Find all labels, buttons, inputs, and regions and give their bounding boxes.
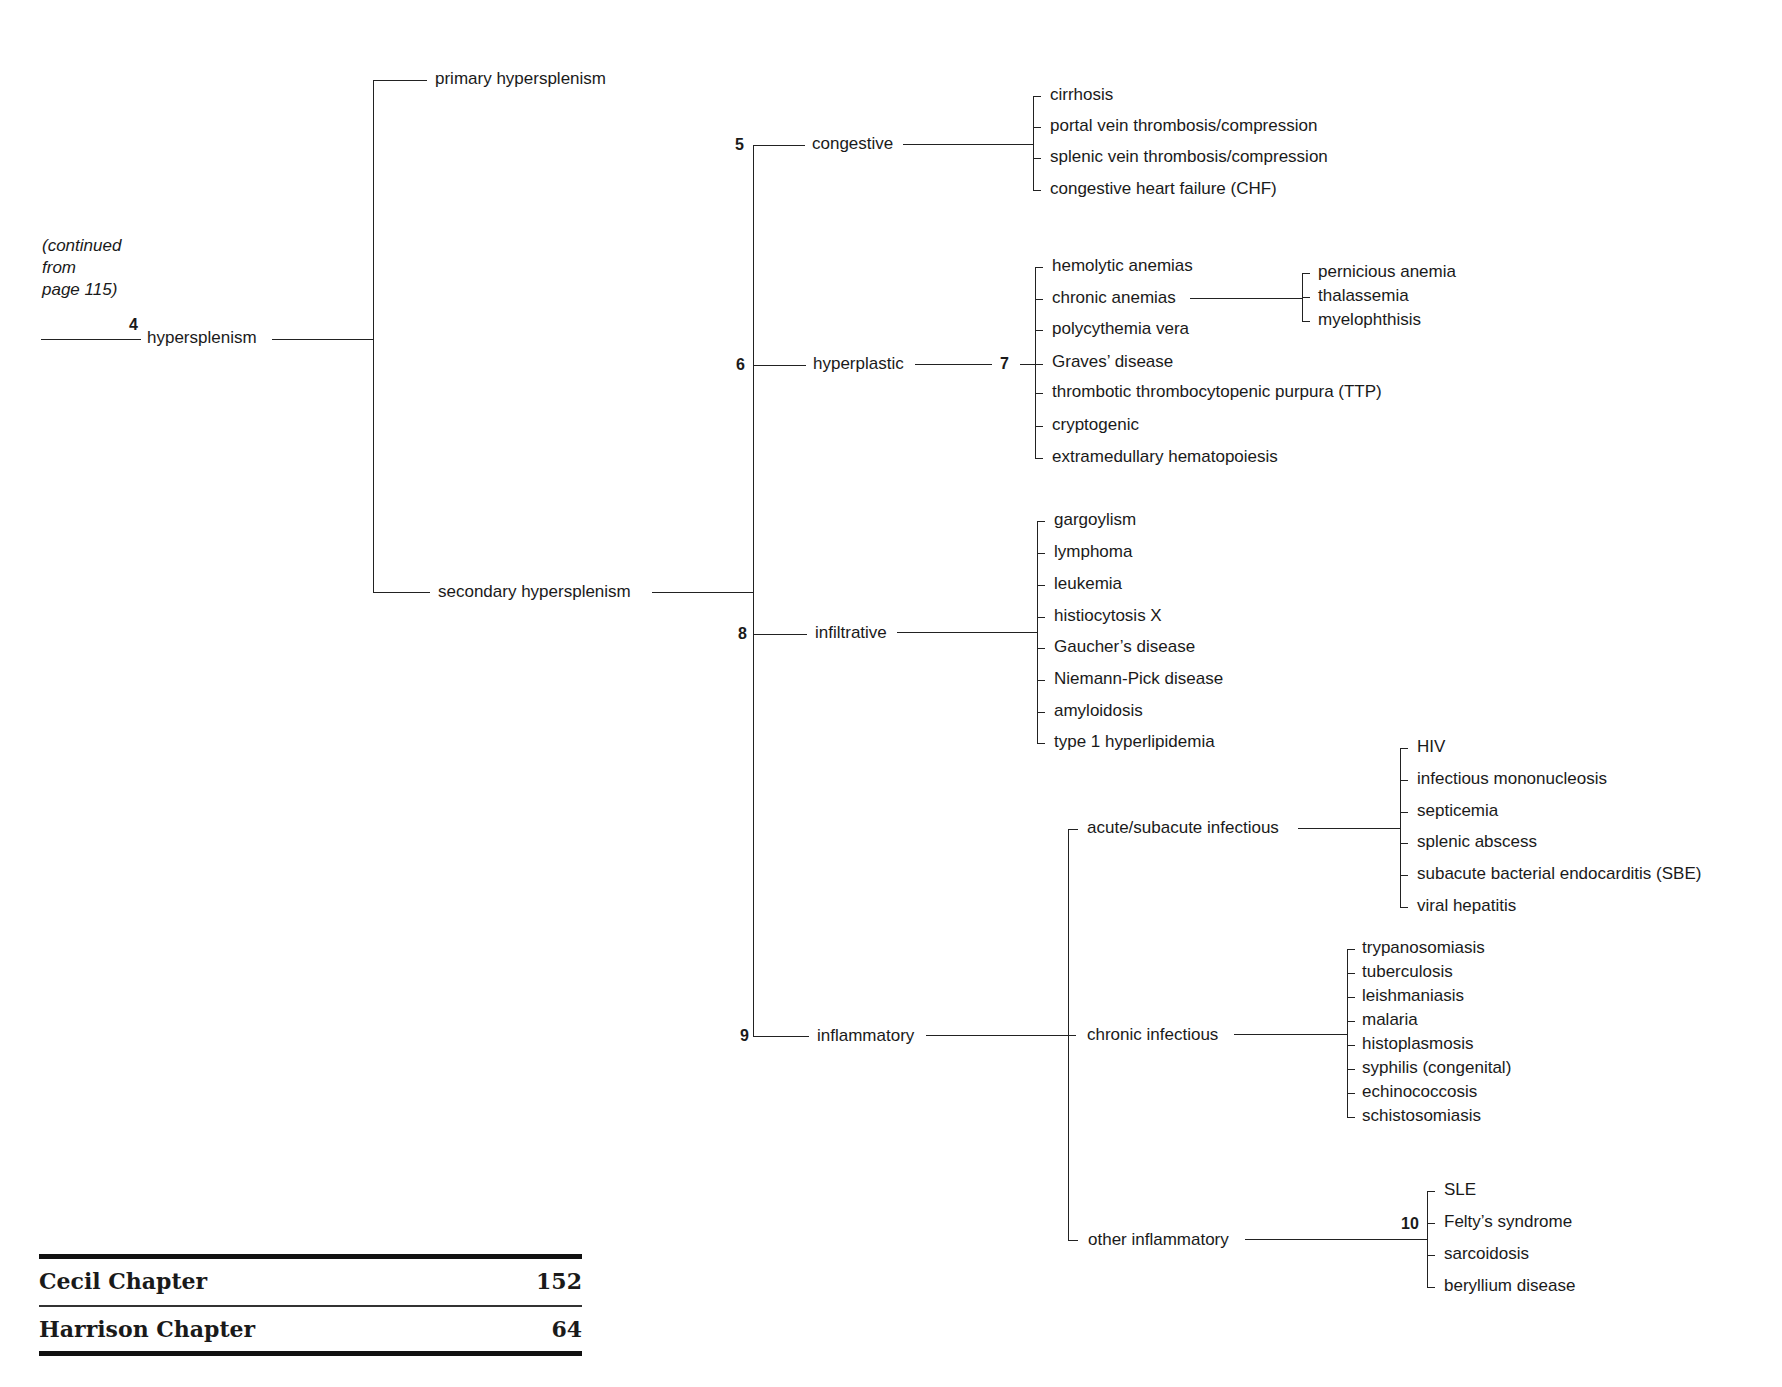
continued-note: (continued from page 115) [42,235,121,301]
leaf-item: Graves’ disease [1052,352,1173,372]
connector [1302,321,1310,322]
connector [1400,907,1408,908]
leaf-item: infectious mononucleosis [1417,769,1607,789]
connector [1033,127,1041,128]
connector [1035,299,1043,300]
connector [1033,96,1041,97]
node-acute-subacute-infectious: acute/subacute infectious [1087,818,1279,838]
reference-value: 64 [551,1316,582,1342]
connector [1068,829,1069,1240]
connector [1033,96,1034,190]
node-secondary-hypersplenism: secondary hypersplenism [438,582,631,602]
connector [1427,1191,1428,1287]
node-hypersplenism: hypersplenism [147,328,257,348]
connector [1033,158,1041,159]
connector [903,144,1033,145]
node-number: 6 [736,355,745,375]
leaf-item: amyloidosis [1054,701,1143,721]
leaf-item: gargoylism [1054,510,1136,530]
connector [272,339,373,340]
leaf-item: extramedullary hematopoiesis [1052,447,1278,467]
connector [753,365,806,366]
connector [1400,780,1408,781]
leaf-item: polycythemia vera [1052,319,1189,339]
connector [753,145,805,146]
connector [1400,748,1401,907]
connector [1035,426,1043,427]
connector [1033,190,1041,191]
connector [1347,1021,1355,1022]
connector [1347,1045,1355,1046]
connector [1427,1255,1435,1256]
leaf-item: syphilis (congenital) [1362,1058,1511,1078]
leaf-item: septicemia [1417,801,1498,821]
leaf-item: leukemia [1054,574,1122,594]
connector [1234,1034,1347,1035]
connector [1035,330,1043,331]
leaf-item: myelophthisis [1318,310,1421,330]
connector [1347,973,1355,974]
leaf-item: splenic abscess [1417,832,1537,852]
node-hyperplastic: hyperplastic [813,354,904,374]
connector [1037,743,1045,744]
leaf-item: histiocytosis X [1054,606,1162,626]
rule-top [39,1254,582,1259]
connector [753,634,807,635]
connector [1347,1093,1355,1094]
node-other-inflammatory: other inflammatory [1088,1230,1229,1250]
leaf-item: sarcoidosis [1444,1244,1529,1264]
leaf-item: chronic anemias [1052,288,1176,308]
connector [1035,458,1043,459]
reference-row-harrison: Harrison Chapter 64 [39,1316,582,1342]
leaf-item: viral hepatitis [1417,896,1516,916]
connector [1298,828,1400,829]
connector [1347,1069,1355,1070]
leaf-item: splenic vein thrombosis/compression [1050,147,1328,167]
connector [1035,393,1043,394]
connector [926,1035,1076,1036]
connector [897,632,1037,633]
leaf-item: HIV [1417,737,1445,757]
leaf-item: Niemann-Pick disease [1054,669,1223,689]
reference-label: Cecil Chapter [39,1268,207,1294]
connector [1427,1287,1435,1288]
connector [1400,843,1408,844]
node-number: 10 [1401,1214,1419,1234]
connector [1302,273,1310,274]
connector [1068,829,1078,830]
leaf-item: Felty’s syndrome [1444,1212,1572,1232]
leaf-item: cirrhosis [1050,85,1113,105]
connector [915,364,992,365]
rule-bottom [39,1351,582,1356]
leaf-item: lymphoma [1054,542,1132,562]
leaf-item: thalassemia [1318,286,1409,306]
leaf-item: cryptogenic [1052,415,1139,435]
connector [1035,267,1043,268]
connector [1347,949,1355,950]
leaf-item: beryllium disease [1444,1276,1575,1296]
leaf-item: pernicious anemia [1318,262,1456,282]
connector [1347,997,1355,998]
leaf-item: leishmaniasis [1362,986,1464,1006]
leaf-item: tuberculosis [1362,962,1453,982]
connector [1347,949,1348,1117]
leaf-item: thrombotic thrombocytopenic purpura (TTP… [1052,382,1382,402]
leaf-item: trypanosomiasis [1362,938,1485,958]
connector [1037,617,1045,618]
leaf-item: histoplasmosis [1362,1034,1474,1054]
connector [373,80,374,592]
leaf-item: SLE [1444,1180,1476,1200]
connector [1037,712,1045,713]
leaf-item: Gaucher’s disease [1054,637,1195,657]
node-chronic-infectious: chronic infectious [1087,1025,1218,1045]
node-primary-hypersplenism: primary hypersplenism [435,69,606,89]
connector [652,592,753,593]
leaf-item: type 1 hyperlipidemia [1054,732,1215,752]
leaf-item: congestive heart failure (CHF) [1050,179,1277,199]
connector [1035,267,1036,458]
continued-line: (continued [42,235,121,257]
leaf-item: schistosomiasis [1362,1106,1481,1126]
connector [41,339,141,340]
connector [1400,812,1408,813]
connector [1400,875,1408,876]
